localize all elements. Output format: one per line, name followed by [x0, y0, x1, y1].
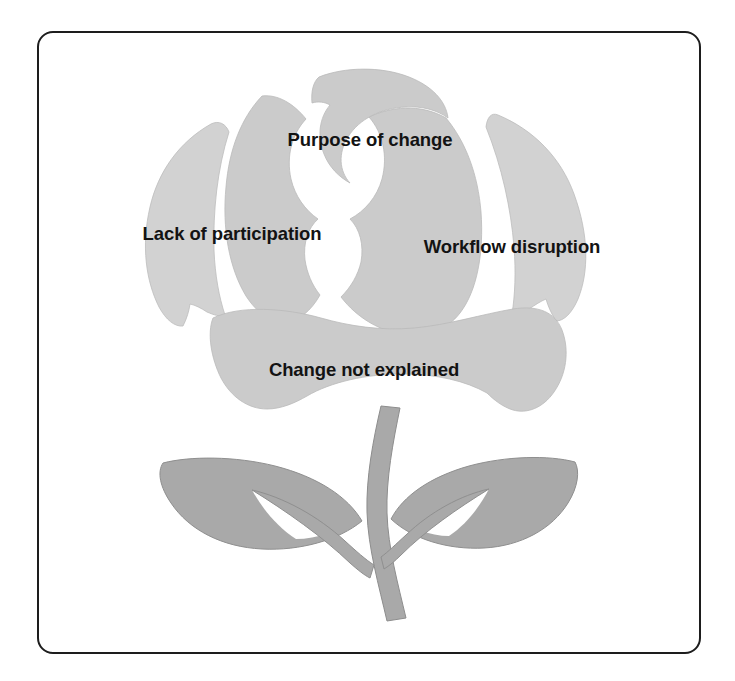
label-workflow-disruption: Workflow disruption [424, 236, 601, 257]
label-lack-of-participation: Lack of participation [143, 223, 322, 244]
diagram-canvas: Purpose of change Lack of participation … [0, 0, 735, 681]
rose-diagram: Purpose of change Lack of participation … [0, 0, 735, 681]
label-change-not-explained: Change not explained [269, 359, 459, 380]
outer-right-petal [486, 114, 586, 321]
label-purpose-of-change: Purpose of change [288, 129, 453, 150]
